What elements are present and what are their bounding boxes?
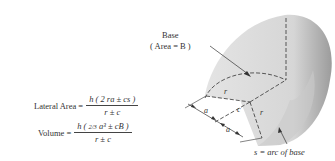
volume-numerator-two-thirds: 2/3 — [89, 123, 97, 130]
arrowhead-a1-left — [191, 104, 196, 108]
arc-label: s = arc of base — [254, 147, 305, 157]
label-a-2: a — [226, 125, 230, 134]
base-label-title: Base — [150, 30, 191, 41]
volume-lhs: Volume = — [38, 128, 71, 138]
volume-numerator-prefix: h ( — [77, 121, 86, 131]
label-a-1: a — [204, 106, 208, 115]
lateral-area-fraction: h ( 2 ra ± cs ) r ± c — [86, 94, 138, 117]
arrowhead-a2-left — [220, 123, 225, 127]
volume-numerator: h ( 2/3 a³ ± cB ) — [74, 121, 131, 133]
lateral-area-lhs: Lateral Area = — [34, 101, 83, 111]
base-label: Base ( Area = B ) — [150, 30, 191, 52]
volume-formula: Volume = h ( 2/3 a³ ± cB ) r ± c — [38, 121, 132, 144]
label-c: c — [237, 105, 241, 114]
volume-fraction: h ( 2/3 a³ ± cB ) r ± c — [74, 121, 131, 144]
volume-numerator-rest: a³ ± cB ) — [99, 121, 129, 131]
volume-denominator: r ± c — [95, 133, 111, 144]
lateral-area-denominator: r ± c — [104, 106, 120, 117]
lateral-area-numerator: h ( 2 ra ± cs ) — [86, 94, 138, 106]
arrowhead-a2-right — [235, 131, 240, 135]
arrowhead-a1-right — [211, 116, 216, 120]
extension-line-1 — [185, 96, 206, 108]
base-label-area: ( Area = B ) — [150, 41, 191, 52]
lateral-area-formula: Lateral Area = h ( 2 ra ± cs ) r ± c — [34, 94, 138, 117]
